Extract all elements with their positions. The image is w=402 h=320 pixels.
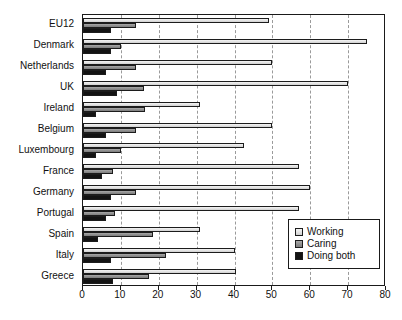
legend-swatch-icon [295, 228, 303, 236]
bar-group [83, 182, 384, 203]
x-axis-tick [347, 286, 348, 290]
y-axis-labels: EU12DenmarkNetherlandsUKIrelandBelgiumLu… [0, 14, 78, 286]
x-axis-tick [385, 286, 386, 290]
x-axis-tick-label: 20 [152, 290, 163, 300]
x-axis-labels: 01020304050607080 [0, 290, 402, 308]
legend-label: Caring [307, 239, 336, 249]
bar-working [83, 206, 299, 211]
x-axis-tick-label: 50 [266, 290, 277, 300]
x-axis-tick-label: 30 [190, 290, 201, 300]
x-axis-tick-label: 40 [228, 290, 239, 300]
x-axis-tick [82, 286, 83, 290]
legend-swatch-icon [295, 252, 303, 260]
bar-working [83, 39, 367, 44]
bar-group [83, 161, 384, 182]
legend-item: Doing both [295, 251, 373, 261]
bar-chart: EU12DenmarkNetherlandsUKIrelandBelgiumLu… [0, 0, 402, 320]
legend-label: Working [307, 227, 344, 237]
x-axis-tick [196, 286, 197, 290]
y-axis-label: Greece [41, 271, 74, 281]
y-axis-label: EU12 [49, 19, 74, 29]
x-axis-tick [271, 286, 272, 290]
bar-both [83, 49, 111, 54]
legend-item: Working [295, 227, 373, 237]
bar-both [83, 237, 98, 242]
x-axis-tick-label: 0 [79, 290, 85, 300]
bar-group [83, 266, 384, 287]
y-axis-label: France [43, 166, 74, 176]
legend-label: Doing both [307, 251, 355, 261]
y-axis-label: Germany [33, 187, 74, 197]
y-axis-label: Italy [56, 250, 74, 260]
bar-both [83, 91, 117, 96]
bar-both [83, 195, 111, 200]
x-axis-tick [120, 286, 121, 290]
x-axis-tick-label: 10 [114, 290, 125, 300]
x-axis-tick-label: 80 [379, 290, 390, 300]
y-axis-label: UK [60, 82, 74, 92]
bar-both [83, 216, 106, 221]
y-axis-label: Denmark [33, 40, 74, 50]
bar-both [83, 112, 96, 117]
y-axis-label: Netherlands [20, 61, 74, 71]
bar-group [83, 141, 384, 162]
y-axis-label: Belgium [38, 124, 74, 134]
bar-both [83, 133, 106, 138]
x-axis-tick [234, 286, 235, 290]
y-axis-label: Portugal [37, 208, 74, 218]
x-axis-tick-label: 60 [304, 290, 315, 300]
legend-item: Caring [295, 239, 373, 249]
bar-group [83, 57, 384, 78]
bar-both [83, 174, 102, 179]
bar-both [83, 153, 96, 158]
bar-group [83, 15, 384, 36]
legend-swatch-icon [295, 240, 303, 248]
x-axis-tick [309, 286, 310, 290]
bar-both [83, 28, 111, 33]
bar-group [83, 99, 384, 120]
bar-group [83, 36, 384, 57]
bar-both [83, 70, 106, 75]
x-axis-tick-label: 70 [342, 290, 353, 300]
bar-group [83, 120, 384, 141]
bar-both [83, 279, 113, 284]
y-axis-label: Ireland [43, 103, 74, 113]
y-axis-label: Spain [48, 229, 74, 239]
y-axis-label: Luxembourg [18, 145, 74, 155]
bar-group [83, 78, 384, 99]
x-axis-tick [158, 286, 159, 290]
bar-working [83, 164, 299, 169]
bar-both [83, 258, 111, 263]
legend: WorkingCaringDoing both [288, 219, 380, 269]
